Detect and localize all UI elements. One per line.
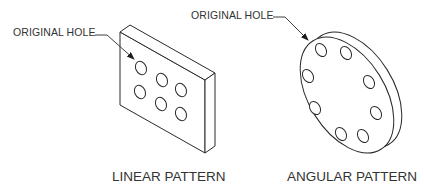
angular-leader-arrow xyxy=(273,17,308,40)
angular-original-hole-label: ORIGINAL HOLE xyxy=(191,10,274,21)
angular-pattern-caption: ANGULAR PATTERN xyxy=(287,170,417,184)
angular-pattern-disc xyxy=(281,16,421,170)
plate-side-face xyxy=(205,73,215,153)
linear-pattern-caption: LINEAR PATTERN xyxy=(112,170,226,184)
linear-original-hole-label: ORIGINAL HOLE xyxy=(13,27,96,38)
